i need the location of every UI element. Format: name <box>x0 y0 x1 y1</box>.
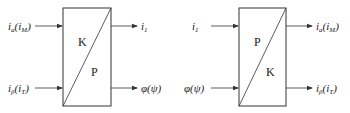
left-output-label-1: i1 <box>141 20 148 36</box>
left-block-lower-label: P <box>91 65 98 80</box>
right-block-diagonal <box>239 8 286 106</box>
right-block-upper-label: P <box>254 35 261 50</box>
left-output-label-2: φ(ψ) <box>141 82 161 94</box>
left-input-label-1: ia(iM) <box>8 20 31 36</box>
left-input-label-2: iβ(iT) <box>8 82 29 98</box>
right-transform-block <box>239 8 286 106</box>
right-output-label-2: iβ(iT) <box>316 82 337 98</box>
left-block-upper-label: K <box>78 35 87 50</box>
right-block-lower-label: K <box>266 65 275 80</box>
diagram-canvas <box>0 0 350 113</box>
right-input-label-1: i1 <box>192 20 199 36</box>
right-input-label-2: φ(ψ) <box>184 82 204 94</box>
left-block-diagonal <box>63 8 111 106</box>
right-output-label-1: ia(iM) <box>316 20 339 36</box>
left-transform-block <box>63 8 111 106</box>
